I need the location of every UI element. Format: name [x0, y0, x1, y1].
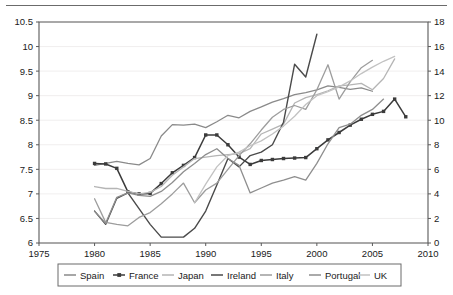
series-marker-france — [293, 156, 296, 159]
x-axis-labels: 19751980198519901995200020052010 — [28, 248, 438, 259]
legend-label-ireland: Ireland — [227, 270, 256, 281]
series-marker-france — [93, 162, 96, 165]
y-axis-tick-label: 10 — [22, 41, 33, 52]
y-axis-tick-label: 9.5 — [20, 66, 33, 77]
series-marker-france — [382, 110, 385, 113]
line-chart: 66.577.588.599.51010.5 024681012141618 1… — [0, 0, 453, 295]
series-marker-france — [104, 162, 107, 165]
legend-label-france: France — [129, 270, 159, 281]
y2-axis-tick-label: 18 — [434, 16, 445, 27]
series-line-italy — [95, 60, 373, 226]
series-marker-france — [248, 163, 251, 166]
legend-label-portugal: Portugal — [325, 270, 360, 281]
chart-legend: SpainFranceJapanIrelandItalyPortugalUK — [58, 264, 401, 286]
y-axis-tick-label: 6 — [28, 237, 33, 248]
y-axis-tick-label: 6.5 — [20, 213, 33, 224]
y-axis-tick-label: 7.5 — [20, 164, 33, 175]
y-axis-tick-label: 7 — [28, 188, 33, 199]
y-axis-labels: 66.577.588.599.51010.5 — [15, 16, 34, 248]
y2-axis-tick-label: 6 — [434, 164, 439, 175]
x-axis-tick-label: 2000 — [306, 248, 327, 259]
plot-border — [39, 22, 428, 243]
y2-axis-tick-label: 8 — [434, 139, 439, 150]
series-marker-france — [282, 157, 285, 160]
series-marker-france — [393, 97, 396, 100]
series-line-uk — [195, 56, 395, 202]
gridlines-group — [39, 22, 428, 243]
y2-axis-tick-label: 4 — [434, 188, 439, 199]
legend-label-uk: UK — [374, 270, 388, 281]
y2-axis-tick-label: 12 — [434, 90, 445, 101]
x-axis-tick-label: 1995 — [251, 248, 272, 259]
series-marker-france — [337, 131, 340, 134]
series-marker-france — [404, 115, 407, 118]
series-group — [93, 34, 408, 237]
series-marker-france — [215, 133, 218, 136]
x-axis-tick-label: 1990 — [195, 248, 216, 259]
y-axis-tick-label: 10.5 — [15, 16, 34, 27]
series-marker-france — [204, 133, 207, 136]
y2-axis-labels: 024681012141618 — [434, 16, 445, 248]
y-axis-tick-label: 9 — [28, 90, 33, 101]
series-marker-france — [271, 158, 274, 161]
series-marker-france — [115, 167, 118, 170]
legend-label-japan: Japan — [178, 270, 204, 281]
series-marker-france — [260, 159, 263, 162]
series-marker-france — [226, 143, 229, 146]
series-marker-france — [360, 118, 363, 121]
x-axis-tick-label: 1975 — [28, 248, 49, 259]
chart-container: 66.577.588.599.51010.5 024681012141618 1… — [0, 0, 453, 295]
y2-axis-tick-label: 10 — [434, 115, 445, 126]
series-marker-france — [315, 147, 318, 150]
legend-marker-france — [117, 273, 121, 277]
y2-axis-tick-label: 16 — [434, 41, 445, 52]
series-marker-france — [371, 113, 374, 116]
legend-label-italy: Italy — [276, 270, 294, 281]
legend-label-spain: Spain — [80, 270, 104, 281]
y2-axis-tick-label: 0 — [434, 237, 439, 248]
y2-axis-tick-label: 14 — [434, 66, 445, 77]
x-axis-tick-label: 1985 — [140, 248, 161, 259]
x-axis-tick-label: 2010 — [417, 248, 438, 259]
plot-frame — [39, 22, 428, 243]
x-axis-tick-label: 2005 — [362, 248, 383, 259]
y-axis-tick-label: 8.5 — [20, 115, 33, 126]
series-marker-france — [304, 156, 307, 159]
y2-axis-tick-label: 2 — [434, 213, 439, 224]
y-axis-tick-label: 8 — [28, 139, 33, 150]
x-axis-tick-label: 1980 — [84, 248, 105, 259]
